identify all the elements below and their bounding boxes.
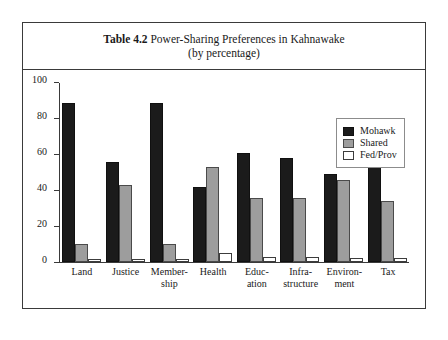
chart-legend: MohawkSharedFed/Prov [336, 118, 405, 168]
bar-shared [250, 198, 263, 262]
y-axis-tick-label: 20 [37, 219, 47, 229]
bar-shared [381, 201, 394, 262]
bar-fed-prov [394, 258, 407, 262]
x-axis-category-label: Justice [104, 266, 148, 289]
bar-mohawk [280, 158, 293, 262]
legend-swatch-icon [343, 127, 354, 136]
bar-group [147, 83, 191, 262]
y-axis-tick: 40 [54, 190, 59, 191]
bar-fed-prov [176, 259, 189, 262]
figure-container: Table 4.2 Power-Sharing Preferences in K… [22, 22, 426, 309]
bar-group [104, 83, 148, 262]
y-axis-tick: 100 [54, 82, 59, 83]
bar-group [191, 83, 235, 262]
y-axis-tick-label: 80 [37, 111, 47, 121]
y-axis-tick-label: 40 [37, 183, 47, 193]
bar-group [235, 83, 279, 262]
bar-group [278, 83, 322, 262]
category-label-line: structure [279, 278, 323, 290]
bar-mohawk [106, 162, 119, 262]
bar-fed-prov [132, 259, 145, 262]
bar-fed-prov [219, 253, 232, 262]
y-axis-tick: 20 [54, 226, 59, 227]
plot-area: 020406080100 LandJusticeMember-shipHealt… [23, 70, 425, 309]
category-label-line: Tax [366, 266, 410, 278]
category-label-line: Justice [104, 266, 148, 278]
bar-fed-prov [88, 259, 101, 262]
legend-item: Mohawk [343, 126, 397, 136]
bar-mohawk [193, 187, 206, 262]
bar-group [322, 83, 366, 262]
bar-group [365, 83, 409, 262]
category-label-line: Infra- [279, 266, 323, 278]
y-axis-tick-label: 100 [32, 75, 47, 85]
bar-mohawk [150, 103, 163, 262]
x-axis-category-label: Land [60, 266, 104, 289]
figure-caption: Table 4.2 Power-Sharing Preferences in K… [23, 23, 425, 70]
x-axis-category-label: Educ-ation [235, 266, 279, 289]
bar-shared [293, 198, 306, 262]
bar-shared [206, 167, 219, 262]
x-axis-line [59, 262, 409, 263]
caption-table-number: Table 4.2 [103, 33, 147, 45]
x-axis-category-labels: LandJusticeMember-shipHealthEduc-ationIn… [60, 266, 410, 289]
legend-label: Shared [360, 138, 388, 148]
bar-shared [75, 244, 88, 262]
x-axis-category-label: Tax [366, 266, 410, 289]
legend-item: Shared [343, 138, 397, 148]
caption-line-1: Table 4.2 Power-Sharing Preferences in K… [103, 32, 344, 46]
caption-title-text: Power-Sharing Preferences in Kahnawake [148, 33, 345, 45]
x-axis-category-label: Infra-structure [279, 266, 323, 289]
x-axis-category-label: Health [191, 266, 235, 289]
legend-label: Fed/Prov [360, 150, 397, 160]
y-axis-tick: 0 [54, 262, 59, 263]
category-label-line: ship [148, 278, 192, 290]
x-axis-category-label: Environ-ment [323, 266, 367, 289]
category-label-line: Health [191, 266, 235, 278]
axes: 020406080100 [59, 83, 409, 263]
x-axis-category-label: Member-ship [148, 266, 192, 289]
legend-swatch-icon [343, 151, 354, 160]
category-label-line: ment [323, 278, 367, 290]
y-axis-tick: 80 [54, 118, 59, 119]
category-label-line: Land [60, 266, 104, 278]
category-label-line: Educ- [235, 266, 279, 278]
bar-shared [163, 244, 176, 262]
bar-fed-prov [306, 257, 319, 262]
y-axis-tick-label: 0 [42, 255, 47, 265]
bar-shared [337, 180, 350, 262]
bar-groups [60, 83, 409, 262]
caption-line-2: (by percentage) [188, 46, 260, 60]
y-axis-tick-label: 60 [37, 147, 47, 157]
legend-label: Mohawk [360, 126, 396, 136]
category-label-line: ation [235, 278, 279, 290]
bar-fed-prov [350, 258, 363, 262]
bar-mohawk [62, 103, 75, 262]
category-label-line: Member- [148, 266, 192, 278]
bar-group [60, 83, 104, 262]
category-label-line: Environ- [323, 266, 367, 278]
legend-swatch-icon [343, 139, 354, 148]
bar-mohawk [324, 174, 337, 262]
y-axis-tick: 60 [54, 154, 59, 155]
legend-item: Fed/Prov [343, 150, 397, 160]
bar-fed-prov [263, 257, 276, 262]
bar-mohawk [237, 153, 250, 262]
bar-shared [119, 185, 132, 262]
